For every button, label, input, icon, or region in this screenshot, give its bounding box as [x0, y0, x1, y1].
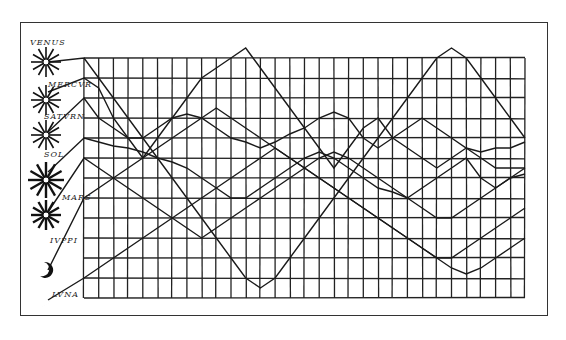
grid-row	[84, 218, 525, 219]
label-sun: SOL	[44, 150, 64, 159]
label-mercury: MERCVR	[48, 80, 92, 89]
grid-row	[84, 98, 525, 99]
grid-row	[84, 278, 525, 279]
grid-row	[84, 58, 525, 59]
grid-row	[84, 138, 525, 139]
planet-paths	[48, 48, 525, 300]
path-mars	[48, 152, 525, 238]
grid	[83, 58, 525, 299]
grid-row	[84, 178, 525, 179]
star-icon	[31, 85, 61, 115]
star-icon	[31, 200, 61, 230]
grid-row	[84, 298, 525, 299]
star-icon	[28, 162, 64, 198]
planetary-chart	[0, 0, 566, 340]
grid-row	[84, 198, 525, 199]
star-icon	[31, 47, 61, 77]
grid-row	[84, 118, 525, 119]
label-mars: MARS	[62, 193, 91, 202]
grid-row	[84, 258, 525, 259]
grid-row	[84, 78, 525, 79]
label-jupiter: IVPPI	[50, 236, 78, 245]
label-saturn: SATVRN	[44, 112, 85, 121]
grid-col	[83, 58, 84, 298]
path-sol	[48, 138, 525, 198]
crescent-moon-icon	[38, 288, 50, 306]
path-mercvr	[48, 48, 525, 168]
path-venus	[48, 48, 525, 288]
label-venus: VENUS	[30, 38, 66, 47]
label-moon: LVNA	[52, 290, 79, 299]
